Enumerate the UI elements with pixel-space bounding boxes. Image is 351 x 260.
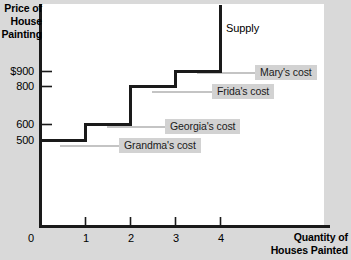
x-tick-label-3: 3 — [167, 232, 185, 244]
callout-georgia-cost: Georgia's cost — [165, 119, 240, 134]
x-tick-label-0: 0 — [22, 232, 40, 244]
x-axis-title-line-2: Houses Painted — [228, 244, 348, 257]
supply-curve-figure: Price of House Painting Quantity of Hous… — [0, 0, 351, 260]
y-tick-label-900: $900 — [0, 65, 34, 77]
y-axis-title-line-1: Price of — [0, 2, 42, 15]
x-axis-title: Quantity of Houses Painted — [228, 231, 348, 257]
y-axis-title-line-3: Painting — [0, 28, 42, 41]
y-tick-label-800: 800 — [0, 80, 34, 92]
y-tick-label-500: 500 — [0, 134, 34, 146]
y-tick-label-600: 600 — [0, 118, 34, 130]
x-axis-title-line-1: Quantity of — [228, 231, 348, 244]
callout-frida-cost: Frida's cost — [212, 84, 274, 99]
x-tick-label-4: 4 — [212, 232, 230, 244]
y-axis-title-line-2: House — [0, 15, 42, 28]
callout-grandma-cost: Grandma's cost — [119, 138, 201, 153]
callout-mary-cost: Mary's cost — [255, 65, 317, 80]
x-tick-label-1: 1 — [77, 232, 95, 244]
y-axis-title: Price of House Painting — [0, 2, 42, 41]
x-tick-label-2: 2 — [122, 232, 140, 244]
supply-curve-label: Supply — [226, 22, 259, 34]
